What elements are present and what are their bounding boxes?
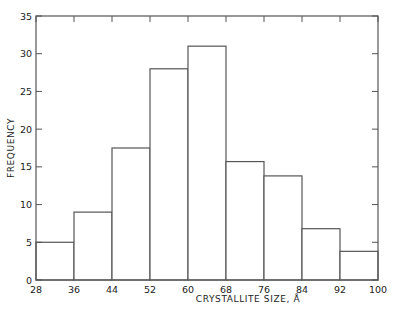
histogram-bar	[36, 242, 74, 280]
x-tick-label: 36	[68, 284, 80, 295]
histogram-bar	[340, 251, 378, 280]
histogram-bar	[74, 212, 112, 280]
y-tick-label: 20	[20, 124, 32, 135]
y-tick-label: 10	[20, 199, 32, 210]
x-tick-label: 60	[182, 284, 194, 295]
y-tick-label: 25	[20, 86, 32, 97]
histogram-chart: 05101520253035 283644526068768492100 CRY…	[0, 0, 394, 319]
histogram-bar	[188, 46, 226, 280]
y-tick-label: 5	[26, 237, 32, 248]
x-tick-label: 52	[144, 284, 156, 295]
histogram-bar	[264, 176, 302, 280]
x-tick-label: 92	[334, 284, 346, 295]
x-axis-title: CRYSTALLITE SIZE, Å	[196, 293, 301, 304]
histogram-bar	[226, 162, 264, 280]
y-axis-title: FREQUENCY	[6, 118, 16, 178]
y-tick-label: 35	[20, 11, 32, 22]
histogram-bar	[150, 69, 188, 280]
y-tick-label: 15	[20, 161, 32, 172]
histogram-bar	[112, 148, 150, 280]
y-tick-label: 30	[20, 48, 32, 59]
histogram-bars	[36, 46, 378, 280]
x-tick-label: 100	[369, 284, 387, 295]
histogram-bar	[302, 229, 340, 280]
x-tick-label: 28	[30, 284, 42, 295]
x-tick-label: 44	[106, 284, 118, 295]
